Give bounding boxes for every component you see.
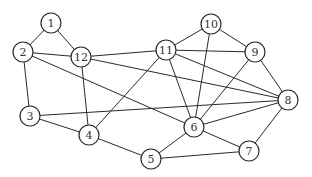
edge-11-6: [166, 50, 194, 127]
node-label: 6: [191, 121, 198, 134]
node-1: 1: [41, 13, 61, 33]
node-label: 11: [159, 44, 173, 57]
edge-5-7: [151, 151, 249, 159]
edge-9-6: [194, 52, 255, 127]
node-9: 9: [245, 42, 265, 62]
edges-layer: [23, 23, 288, 159]
edge-12-4: [81, 57, 89, 135]
edge-11-8: [166, 50, 288, 100]
node-label: 1: [48, 17, 55, 30]
node-label: 5: [148, 153, 155, 166]
edge-12-8: [81, 57, 288, 100]
node-label: 4: [86, 129, 93, 142]
node-label: 9: [252, 46, 259, 59]
node-11: 11: [156, 40, 176, 60]
edge-6-8: [194, 100, 288, 127]
node-8: 8: [278, 90, 298, 110]
node-label: 3: [27, 110, 34, 123]
node-5: 5: [141, 149, 161, 169]
node-4: 4: [79, 125, 99, 145]
edge-2-6: [23, 52, 194, 127]
node-7: 7: [239, 141, 259, 161]
node-label: 10: [204, 18, 218, 31]
node-12: 12: [71, 47, 91, 67]
node-label: 12: [74, 51, 88, 64]
edge-12-11: [81, 50, 166, 57]
node-10: 10: [201, 14, 221, 34]
edge-3-8: [30, 100, 288, 116]
graph-diagram: 123456789101112: [0, 0, 312, 177]
node-label: 8: [285, 94, 292, 107]
edge-11-9: [166, 50, 255, 52]
nodes-layer: 123456789101112: [13, 13, 298, 169]
edge-11-4: [89, 50, 166, 135]
edge-10-6: [194, 24, 211, 127]
node-2: 2: [13, 42, 33, 62]
node-6: 6: [184, 117, 204, 137]
node-label: 2: [20, 46, 27, 59]
node-3: 3: [20, 106, 40, 126]
node-label: 7: [246, 145, 253, 158]
